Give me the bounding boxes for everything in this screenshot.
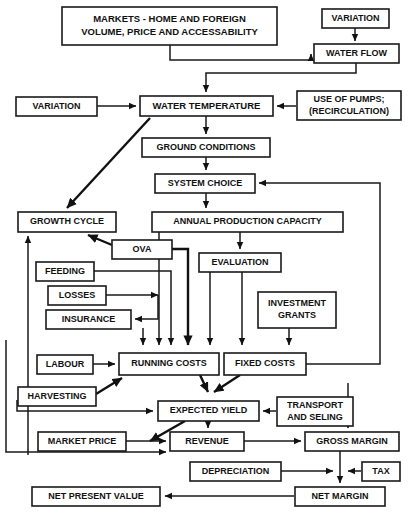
node-losses[interactable]: LOSSES bbox=[48, 286, 106, 305]
node-label-transport: AND SELING bbox=[287, 412, 343, 422]
node-fixed[interactable]: FIXED COSTS bbox=[224, 353, 306, 375]
node-system[interactable]: SYSTEM CHOICE bbox=[155, 174, 255, 193]
node-expected[interactable]: EXPECTED YIELD bbox=[158, 401, 259, 421]
node-variation1[interactable]: VARIATION bbox=[322, 9, 389, 28]
node-markets[interactable]: MARKETS - HOME AND FOREIGNVOLUME, PRICE … bbox=[62, 7, 277, 45]
node-revenue[interactable]: REVENUE bbox=[170, 432, 244, 451]
node-label-investment: INVESTMENT bbox=[268, 298, 327, 308]
node-depreciation[interactable]: DEPRECIATION bbox=[190, 462, 281, 481]
node-label-evaluation: EVALUATION bbox=[211, 257, 268, 267]
node-running[interactable]: RUNNING COSTS bbox=[119, 353, 219, 375]
node-investment[interactable]: INVESTMENTGRANTS bbox=[258, 292, 336, 328]
node-label-waterflow: WATER FLOW bbox=[326, 48, 387, 58]
node-label-revenue: REVENUE bbox=[185, 436, 229, 446]
flowchart-diagram: MARKETS - HOME AND FOREIGNVOLUME, PRICE … bbox=[0, 0, 412, 517]
node-label-growth: GROWTH CYCLE bbox=[30, 216, 104, 226]
node-transport[interactable]: TRANSPORTAND SELING bbox=[277, 397, 353, 426]
node-watertemp[interactable]: WATER TEMPERATURE bbox=[140, 96, 273, 116]
node-waterflow[interactable]: WATER FLOW bbox=[314, 44, 399, 63]
node-variation2[interactable]: VARIATION bbox=[16, 97, 97, 116]
node-label-harvesting: HARVESTING bbox=[28, 391, 87, 401]
node-netmargin[interactable]: NET MARGIN bbox=[295, 487, 385, 506]
node-ova[interactable]: OVA bbox=[112, 240, 172, 259]
node-growth[interactable]: GROWTH CYCLE bbox=[18, 212, 116, 232]
node-label-losses: LOSSES bbox=[59, 290, 96, 300]
node-label-feeding: FEEDING bbox=[45, 266, 85, 276]
node-label-markets: MARKETS - HOME AND FOREIGN bbox=[93, 13, 246, 24]
node-label-depreciation: DEPRECIATION bbox=[202, 466, 269, 476]
node-label-insurance: INSURANCE bbox=[62, 314, 116, 324]
node-label-markets: VOLUME, PRICE AND ACCESSABILITY bbox=[81, 26, 258, 37]
node-npv[interactable]: NET PRESENT VALUE bbox=[32, 487, 160, 506]
node-label-grossmargin: GROSS MARGIN bbox=[316, 436, 388, 446]
node-label-watertemp: WATER TEMPERATURE bbox=[153, 100, 261, 111]
node-label-running: RUNNING COSTS bbox=[131, 358, 207, 368]
node-label-ground: GROUND CONDITIONS bbox=[157, 142, 256, 152]
node-label-variation1: VARIATION bbox=[331, 13, 379, 23]
node-ground[interactable]: GROUND CONDITIONS bbox=[142, 138, 270, 157]
node-label-ova: OVA bbox=[133, 244, 152, 254]
node-evaluation[interactable]: EVALUATION bbox=[199, 253, 281, 272]
node-label-marketprice: MARKET PRICE bbox=[48, 436, 117, 446]
node-harvesting[interactable]: HARVESTING bbox=[18, 387, 96, 406]
node-grossmargin[interactable]: GROSS MARGIN bbox=[305, 432, 399, 451]
node-label-variation2: VARIATION bbox=[32, 101, 80, 111]
node-label-npv: NET PRESENT VALUE bbox=[48, 491, 143, 501]
node-insurance[interactable]: INSURANCE bbox=[46, 310, 131, 329]
node-pumps[interactable]: USE OF PUMPS;(RECIRCULATION) bbox=[297, 91, 401, 120]
node-apc[interactable]: ANNUAL PRODUCTION CAPACITY bbox=[152, 212, 343, 232]
node-tax[interactable]: TAX bbox=[362, 462, 400, 481]
node-labour[interactable]: LABOUR bbox=[37, 355, 93, 374]
node-label-fixed: FIXED COSTS bbox=[235, 358, 295, 368]
node-feeding[interactable]: FEEDING bbox=[36, 262, 94, 281]
node-label-transport: TRANSPORT bbox=[287, 400, 344, 410]
node-label-netmargin: NET MARGIN bbox=[312, 491, 369, 501]
node-marketprice[interactable]: MARKET PRICE bbox=[38, 432, 126, 451]
node-label-investment: GRANTS bbox=[278, 310, 316, 320]
node-label-expected: EXPECTED YIELD bbox=[170, 405, 248, 415]
node-label-system: SYSTEM CHOICE bbox=[168, 178, 243, 188]
node-label-tax: TAX bbox=[372, 466, 389, 476]
node-label-pumps: (RECIRCULATION) bbox=[309, 106, 389, 116]
node-label-pumps: USE OF PUMPS; bbox=[313, 94, 384, 104]
node-label-apc: ANNUAL PRODUCTION CAPACITY bbox=[173, 216, 322, 226]
node-label-labour: LABOUR bbox=[46, 359, 85, 369]
